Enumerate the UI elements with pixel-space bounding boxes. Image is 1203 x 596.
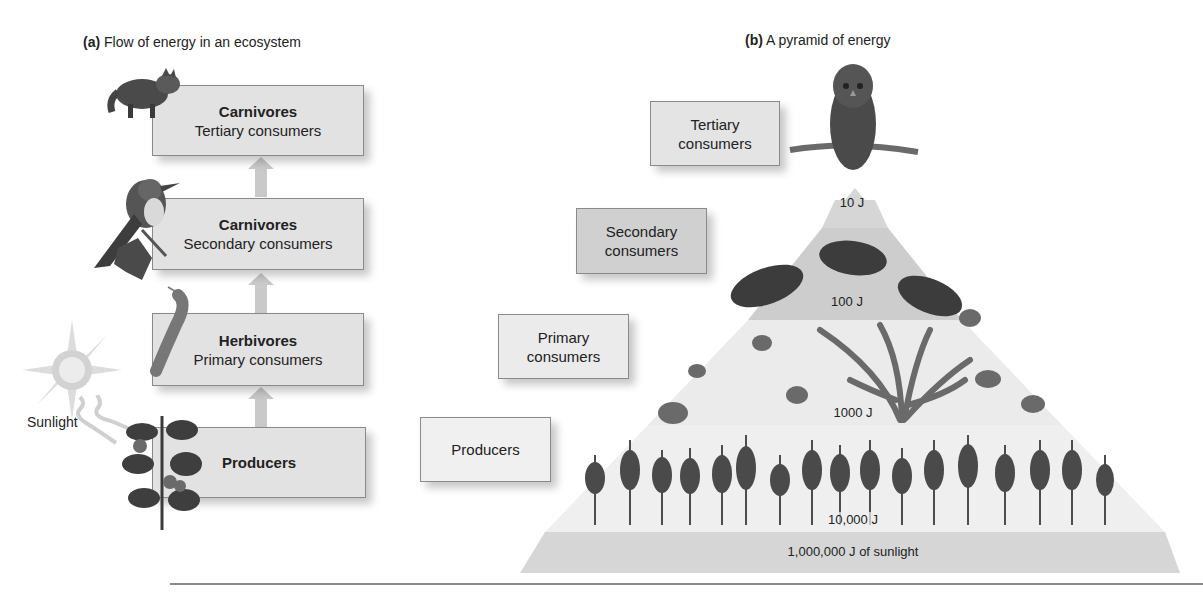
trophic-box-line1: Primary <box>538 328 590 347</box>
trophic-box-line1: Producers <box>451 440 519 459</box>
bottom-divider <box>170 583 1203 585</box>
owl-icon <box>790 64 918 170</box>
energy-label-primary: 1000 J <box>833 405 872 420</box>
trophic-box-line2: consumers <box>605 241 678 260</box>
trophic-box-primary: Primary consumers <box>498 314 629 379</box>
sunlight-energy-label: 1,000,000 J of sunlight <box>788 544 919 559</box>
trophic-box-line2: consumers <box>678 134 751 153</box>
trophic-box-line1: Tertiary <box>690 115 739 134</box>
trophic-box-line2: consumers <box>527 347 600 366</box>
energy-pyramid <box>0 0 1203 596</box>
energy-label-producers: 10,000 J <box>826 512 880 527</box>
energy-label-secondary: 100 J <box>831 294 863 309</box>
trophic-box-producers: Producers <box>420 417 551 482</box>
trophic-box-tertiary: Tertiary consumers <box>650 101 780 166</box>
energy-label-tertiary: 10 J <box>840 195 865 210</box>
trophic-box-secondary: Secondary consumers <box>576 208 707 274</box>
trophic-box-line1: Secondary <box>606 222 678 241</box>
